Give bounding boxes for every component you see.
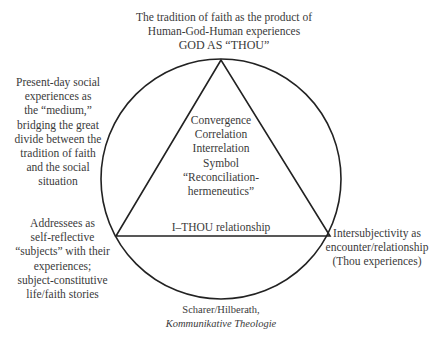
right-lower-line: Intersubjectivity as: [318, 226, 436, 240]
right-lower-line: encounter/relationship: [318, 240, 436, 254]
center-line: “Reconciliation-: [171, 170, 271, 184]
caption-title: Kommunikative Theologie: [146, 317, 296, 331]
top-label: The tradition of faith as the product of…: [119, 10, 329, 53]
top-label-line: Human-God-Human experiences: [119, 24, 329, 38]
center-label: Convergence Correlation Interrelation Sy…: [171, 113, 271, 198]
left-upper-line: experiences as: [8, 89, 108, 103]
center-line: Convergence: [171, 113, 271, 127]
caption-author: Scharer/Hilberath,: [146, 303, 296, 317]
center-line: Correlation: [171, 127, 271, 141]
right-lower-line: (Thou experiences): [318, 254, 436, 268]
left-lower-line: subject-constitutive: [5, 273, 120, 287]
left-upper-line: bridging the great: [8, 118, 108, 132]
left-lower-line: experiences;: [5, 259, 120, 273]
right-lower-label: Intersubjectivity as encounter/relations…: [318, 226, 436, 269]
center-line: Symbol: [171, 156, 271, 170]
top-label-line: GOD AS “THOU”: [119, 38, 329, 52]
left-lower-line: self-reflective: [5, 230, 120, 244]
left-upper-line: Present-day social: [8, 75, 108, 89]
left-upper-line: divide between the: [8, 132, 108, 146]
center-line: Interrelation: [171, 141, 271, 155]
left-lower-line: Addressees as: [5, 216, 120, 230]
top-label-line: The tradition of faith as the product of: [119, 10, 329, 24]
center-line: hermeneutics”: [171, 184, 271, 198]
left-upper-line: situation: [8, 174, 108, 188]
left-lower-line: life/faith stories: [5, 287, 120, 301]
left-upper-line: and the social: [8, 160, 108, 174]
left-lower-label: Addressees as self-reflective “subjects”…: [5, 216, 120, 301]
caption: Scharer/Hilberath, Kommunikative Theolog…: [146, 303, 296, 330]
left-upper-label: Present-day social experiences as the “m…: [8, 75, 108, 189]
base-label: I–THOU relationship: [146, 220, 296, 234]
left-lower-line: “subjects” with their: [5, 244, 120, 258]
left-upper-line: the “medium,”: [8, 103, 108, 117]
left-upper-line: tradition of faith: [8, 146, 108, 160]
i-thou-relationship-label: I–THOU relationship: [146, 220, 296, 234]
